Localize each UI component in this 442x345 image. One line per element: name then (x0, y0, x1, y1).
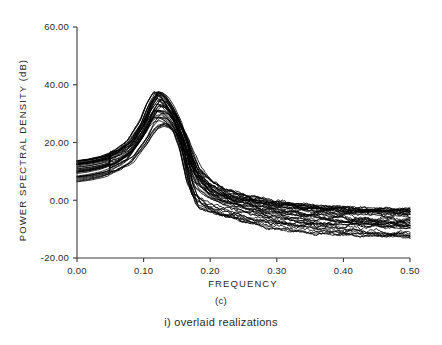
x-tick-label: 0.00 (67, 265, 86, 276)
x-tick-label: 0.40 (334, 265, 353, 276)
y-tick-label: 20.00 (44, 137, 69, 148)
psd-chart-svg: -20.000.0020.0040.0060.00 0.000.100.200.… (0, 0, 442, 345)
x-tick-label: 0.30 (267, 265, 286, 276)
x-tick-label: 0.50 (400, 265, 419, 276)
y-tick-label: -20.00 (41, 252, 69, 263)
x-axis-title: FREQUENCY (208, 278, 278, 289)
x-tick-label: 0.10 (134, 265, 153, 276)
figure-subcaption: i) overlaid realizations (0, 316, 442, 328)
x-tick-label: 0.20 (201, 265, 220, 276)
y-tick-label: 60.00 (44, 21, 69, 32)
psd-realization-curve (77, 92, 410, 224)
plot-curves (77, 91, 410, 238)
x-axis (77, 258, 410, 262)
y-tick-label: 0.00 (50, 195, 69, 206)
y-tick-label: 40.00 (44, 79, 69, 90)
panel-caption: (c) (0, 295, 442, 306)
x-tick-labels: 0.000.100.200.300.400.50 (67, 265, 419, 276)
y-axis-title: POWER SPECTRAL DENSITY (dB) (17, 59, 28, 241)
y-axis (73, 27, 77, 258)
y-tick-labels: -20.000.0020.0040.0060.00 (41, 21, 69, 263)
psd-figure: -20.000.0020.0040.0060.00 0.000.100.200.… (0, 0, 442, 345)
